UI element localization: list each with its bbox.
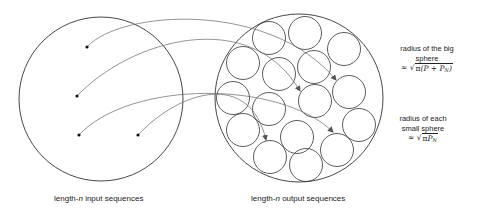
small-sphere: [328, 33, 361, 66]
small-sphere: [227, 47, 260, 80]
mapping-arrow: [138, 94, 266, 140]
small-radicand: πPN: [422, 133, 438, 146]
big-note-line1: radius of the big: [382, 44, 472, 54]
big-formula-body: (P + P: [421, 64, 445, 73]
output-label-suffix: output sequences: [280, 194, 345, 203]
mapping-arrow: [79, 93, 333, 135]
mapping-arrow: [87, 19, 336, 80]
small-sphere: [343, 109, 376, 142]
small-sphere-radius-note: radius of each small sphere ≈ √πPN: [378, 114, 468, 146]
small-sphere: [217, 82, 250, 115]
small-spheres-group: [217, 17, 376, 182]
small-sphere: [253, 22, 286, 55]
big-sphere-radius-note: radius of the big sphere ≈ √π(P + PN): [382, 44, 472, 76]
small-sphere: [289, 17, 322, 50]
input-sequences-circle: [19, 17, 183, 181]
input-point: [75, 94, 78, 97]
big-sphere-formula: ≈ √π(P + PN): [401, 63, 453, 76]
small-note-line1: radius of each: [378, 114, 468, 124]
input-points-group: [75, 45, 139, 136]
small-sphere: [298, 51, 331, 84]
input-point: [136, 133, 139, 136]
small-sphere: [299, 85, 332, 118]
small-sphere: [290, 149, 323, 182]
big-radicand: π(P + PN): [415, 63, 453, 76]
small-sphere: [254, 141, 287, 174]
big-note-line2: sphere: [382, 54, 472, 64]
small-sphere-formula: ≈ √πPN: [408, 133, 438, 146]
small-sphere: [253, 93, 286, 126]
input-circle: [19, 17, 183, 181]
input-point: [85, 45, 88, 48]
channel-coding-diagram: [0, 0, 480, 214]
output-label-prefix: length-: [251, 194, 275, 203]
small-note-line2: small sphere: [378, 124, 468, 134]
small-formula-sub: N: [433, 137, 437, 143]
output-sequences-label: length-n output sequences: [251, 194, 345, 204]
input-sequences-label: length-n input sequences: [54, 194, 143, 204]
mapping-arrow: [77, 39, 300, 96]
mapping-arrows-group: [77, 19, 336, 140]
small-sphere: [263, 58, 296, 91]
small-sphere: [321, 134, 354, 167]
big-formula-close: ): [449, 64, 452, 73]
approx-symbol: ≈: [401, 63, 407, 73]
input-point: [77, 133, 80, 136]
approx-symbol: ≈: [408, 133, 414, 143]
small-sphere: [227, 114, 260, 147]
input-label-prefix: length-: [54, 194, 78, 203]
small-sphere: [333, 76, 366, 109]
input-label-suffix: input sequences: [83, 194, 144, 203]
